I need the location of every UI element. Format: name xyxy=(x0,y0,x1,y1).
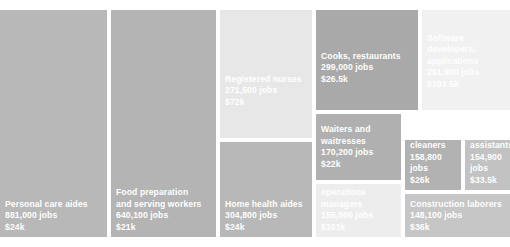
tile-jobs-value: 881,000 jobs xyxy=(5,210,104,222)
tile-occupation-name: Personal care aides xyxy=(5,199,104,211)
tile-jobs-value: 148,100 jobs xyxy=(410,210,507,222)
tile-wage-value: $24k xyxy=(5,222,104,234)
tile-label-group: Software developers, applications261,900… xyxy=(427,33,507,91)
tile-wage-value: $21k xyxy=(116,222,213,234)
tile-occupation-name: Waiters and waitresses xyxy=(321,124,398,147)
treemap-tile[interactable]: Construction laborers148,100 jobs$36k xyxy=(405,194,510,237)
tile-wage-value: $33.5k xyxy=(470,175,507,187)
tile-jobs-value: 261,900 jobs xyxy=(427,67,507,79)
tile-jobs-value: 155,000 jobs xyxy=(321,210,398,222)
treemap-tile[interactable]: Janitors and cleaners158,800 jobs$26k xyxy=(405,140,461,190)
tile-label-group: Home health aides304,800 jobs$24k xyxy=(225,199,309,234)
treemap-tile[interactable]: Home health aides304,800 jobs$24k xyxy=(220,142,312,237)
treemap-tile[interactable]: Personal care aides881,000 jobs$24k xyxy=(0,10,107,237)
tile-jobs-value: 640,100 jobs xyxy=(116,210,213,222)
treemap-tile[interactable]: General and operations managers155,000 j… xyxy=(316,184,401,237)
tile-occupation-name: Home health aides xyxy=(225,199,309,211)
tile-wage-value: $26.5k xyxy=(321,74,415,86)
treemap-chart: Personal care aides881,000 jobs$24kFood … xyxy=(0,0,510,247)
tile-label-group: Food preparation and serving workers640,… xyxy=(116,187,213,233)
treemap-tile[interactable]: Registered nurses271,500 jobs$72k xyxy=(220,10,312,138)
tile-label-group: Janitors and cleaners158,800 jobs$26k xyxy=(410,140,458,186)
tile-occupation-name: General and operations managers xyxy=(321,184,398,210)
tile-jobs-value: 154,900 jobs xyxy=(470,152,507,175)
tile-label-group: Medical assistants154,900 jobs$33.5k xyxy=(470,140,507,186)
tile-wage-value: $72k xyxy=(225,97,309,109)
tile-occupation-name: Food preparation and serving workers xyxy=(116,187,213,210)
tile-occupation-name: Registered nurses xyxy=(225,74,309,86)
tile-occupation-name: Janitors and cleaners xyxy=(410,140,458,152)
tile-occupation-name: Construction laborers xyxy=(410,199,507,211)
tile-label-group: Personal care aides881,000 jobs$24k xyxy=(5,199,104,234)
tile-jobs-value: 299,000 jobs xyxy=(321,62,415,74)
tile-wage-value: $36k xyxy=(410,222,507,234)
tile-jobs-value: 304,800 jobs xyxy=(225,210,309,222)
treemap-tile[interactable]: Food preparation and serving workers640,… xyxy=(111,10,216,237)
tile-wage-value: $26k xyxy=(410,175,458,187)
tile-occupation-name: Software developers, applications xyxy=(427,33,507,68)
treemap-tile[interactable]: Software developers, applications261,900… xyxy=(422,10,510,110)
tile-jobs-value: 158,800 jobs xyxy=(410,152,458,175)
treemap-tile[interactable]: Cooks, restaurants299,000 jobs$26.5k xyxy=(316,10,418,110)
tile-label-group: General and operations managers155,000 j… xyxy=(321,184,398,233)
tile-wage-value: $103.5k xyxy=(427,79,507,91)
tile-jobs-value: 170,200 jobs xyxy=(321,147,398,159)
tile-label-group: Cooks, restaurants299,000 jobs$26.5k xyxy=(321,51,415,86)
tile-wage-value: $24k xyxy=(225,222,309,234)
tile-wage-value: $101k xyxy=(321,222,398,234)
tile-jobs-value: 271,500 jobs xyxy=(225,85,309,97)
tile-occupation-name: Medical assistants xyxy=(470,140,507,152)
treemap-tile[interactable]: Medical assistants154,900 jobs$33.5k xyxy=(465,140,510,190)
tile-label-group: Construction laborers148,100 jobs$36k xyxy=(410,199,507,234)
tile-occupation-name: Cooks, restaurants xyxy=(321,51,415,63)
tile-label-group: Waiters and waitresses170,200 jobs$22k xyxy=(321,124,398,170)
treemap-tile[interactable]: Waiters and waitresses170,200 jobs$22k xyxy=(316,114,401,180)
tile-wage-value: $22k xyxy=(321,159,398,171)
tile-label-group: Registered nurses271,500 jobs$72k xyxy=(225,74,309,109)
